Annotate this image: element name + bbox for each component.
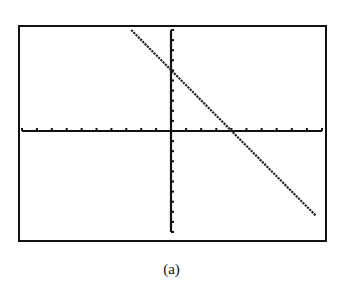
plotted-line — [131, 30, 316, 216]
series-line — [131, 30, 316, 216]
graph-plot — [0, 0, 343, 294]
figure-caption: (a) — [0, 261, 343, 278]
